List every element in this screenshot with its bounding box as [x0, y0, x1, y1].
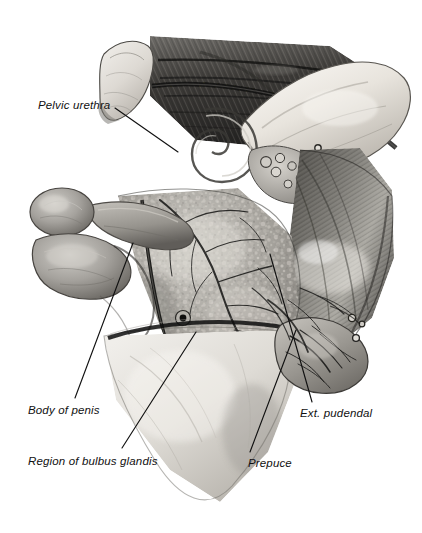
label-prepuce: Prepuce	[248, 458, 292, 470]
anatomical-illustration	[0, 0, 422, 533]
label-pelvic-urethra: Pelvic urethra	[38, 100, 110, 112]
label-ext-pudendal: Ext. pudendal	[300, 408, 372, 420]
label-region-of-bulbus-glandis: Region of bulbus glandis	[28, 456, 158, 468]
label-body-of-penis: Body of penis	[28, 405, 100, 417]
